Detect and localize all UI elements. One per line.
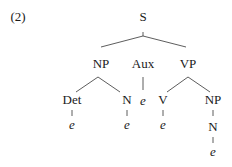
node-n-e: e — [124, 118, 130, 132]
node-vp: VP — [180, 57, 197, 71]
node-vp-np-n: N — [208, 120, 217, 134]
node-aux-e: e — [140, 94, 146, 108]
node-aux: Aux — [132, 57, 154, 71]
edge-np-n — [98, 77, 120, 92]
edge-vp-np — [188, 77, 210, 92]
edge-np-det — [76, 77, 98, 92]
node-v: V — [158, 93, 167, 107]
node-v-e: e — [160, 118, 166, 132]
edge-s-vp — [143, 36, 186, 47]
edge-vp-v — [167, 77, 188, 92]
node-n: N — [122, 93, 131, 107]
example-number: (2) — [10, 10, 25, 24]
node-s: S — [139, 10, 146, 24]
node-vp-np: NP — [205, 93, 222, 107]
tree-edges — [0, 0, 232, 167]
node-det: Det — [63, 93, 82, 107]
node-vp-np-n-e: e — [210, 145, 216, 159]
node-det-e: e — [69, 118, 75, 132]
edge-s-np — [101, 36, 143, 47]
node-np: NP — [93, 57, 110, 71]
